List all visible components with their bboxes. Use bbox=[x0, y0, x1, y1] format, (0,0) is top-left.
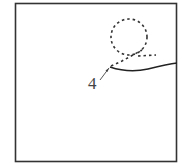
diagram-figure: 4 bbox=[0, 0, 182, 168]
phantom-line-tail bbox=[138, 55, 156, 56]
callout-label-4: 4 bbox=[88, 74, 97, 93]
phantom-line bbox=[111, 50, 142, 66]
solid-curve bbox=[110, 63, 177, 71]
